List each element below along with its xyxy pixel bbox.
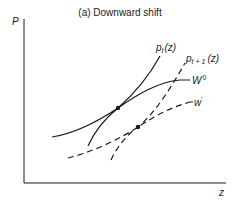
- label-p-t-plus-1: pt + 1(z): [185, 53, 219, 65]
- curve-w-prime: [68, 102, 190, 158]
- point-shifted-equilibrium: [136, 125, 140, 129]
- downward-shift-diagram: (a) Downward shift P z pt(z) pt + 1(z) W…: [0, 0, 240, 203]
- curve-p-t-plus-1: [111, 63, 185, 160]
- y-axis-label: P: [12, 16, 19, 27]
- label-W0: W0: [192, 74, 206, 86]
- curve-p-t: [88, 56, 160, 146]
- point-initial-equilibrium: [116, 106, 120, 110]
- x-axis-label: z: [218, 187, 224, 198]
- label-w-prime: w': [194, 96, 203, 108]
- diagram-title: (a) Downward shift: [78, 7, 162, 18]
- label-p-t: pt(z): [155, 42, 176, 54]
